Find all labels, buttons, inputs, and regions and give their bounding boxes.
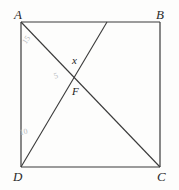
geometry-figure: A B C D x F 15 5 10	[0, 0, 179, 190]
diagonal-ac-line	[21, 22, 160, 167]
vertex-label-b: B	[156, 8, 164, 21]
vertex-label-d: D	[13, 170, 22, 183]
geometry-canvas	[0, 0, 179, 190]
intersection-point-label-f: F	[72, 86, 79, 97]
annotation-lower-left: 10	[19, 128, 28, 137]
vertex-label-c: C	[157, 170, 166, 183]
cevian-de-line	[21, 22, 107, 167]
vertex-label-a: A	[14, 8, 22, 21]
unknown-length-label-x: x	[72, 55, 77, 66]
